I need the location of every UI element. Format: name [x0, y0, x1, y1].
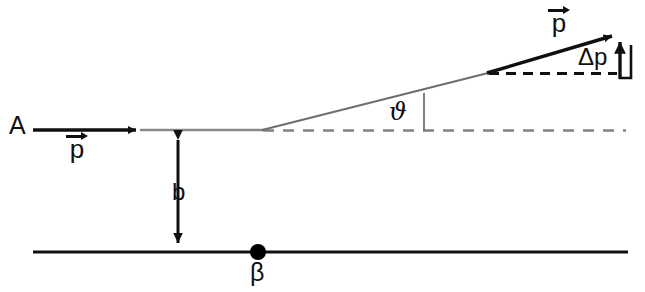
outgoing-momentum-label: p [548, 4, 570, 36]
outgoing-momentum-symbol: p [548, 11, 570, 36]
impact-parameter-label: b [172, 180, 185, 204]
scattering-angle-label: ϑ [389, 99, 407, 124]
incident-momentum-symbol: p [66, 137, 88, 162]
incident-momentum-label: p [66, 130, 88, 162]
target-nucleus-label: β [250, 260, 264, 285]
vector-arrow-icon [66, 130, 88, 139]
scattering-diagram: A p p b ϑ Δp β [0, 0, 645, 292]
incident-particle-label: A [9, 113, 26, 138]
momentum-change-label: Δp [578, 45, 607, 69]
diagram-canvas [0, 0, 645, 292]
outgoing-trajectory-line [262, 72, 492, 130]
vector-arrow-icon [548, 4, 570, 13]
